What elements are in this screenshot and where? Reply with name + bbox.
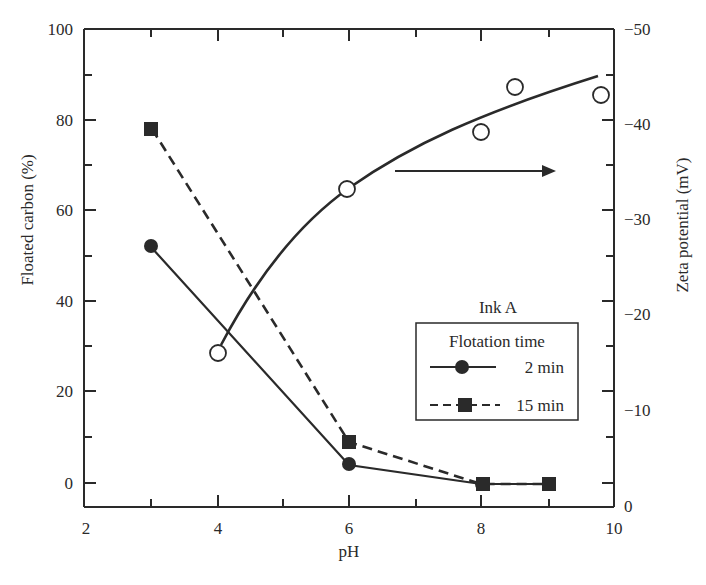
y-tick-label: 60	[56, 201, 73, 220]
legend-entry-2min: 2 min	[525, 358, 565, 377]
y2-tick-label: 0	[624, 497, 633, 516]
x-tick-label: 10	[606, 519, 623, 538]
data-point	[144, 239, 158, 253]
ink-annotation: Ink A	[479, 298, 518, 317]
left-y-ticks	[84, 29, 96, 483]
x-tick-label: 2	[82, 519, 91, 538]
data-point	[210, 345, 226, 361]
legend-entry-15min: 15 min	[516, 396, 564, 415]
legend-circle-icon	[455, 360, 469, 374]
data-point	[593, 87, 609, 103]
data-point	[542, 477, 556, 491]
zeta-fit-curve	[221, 76, 598, 345]
y2-tick-label: −50	[624, 20, 651, 39]
y-tick-label: 80	[56, 111, 73, 130]
y2-tick-label: −10	[624, 401, 651, 420]
right-y-tick-labels: −50 −40 −30 −20 −10 0	[624, 20, 651, 516]
data-point	[476, 477, 490, 491]
data-point	[144, 122, 158, 136]
x-tick-label: 4	[214, 519, 223, 538]
chart: 100 80 60 40 20 0 2 4 6 8 10 pH Floated …	[0, 0, 706, 585]
data-point	[507, 79, 523, 95]
left-y-axis-title: Floated carbon (%)	[18, 154, 37, 285]
x-tick-labels: 2 4 6 8 10	[82, 519, 623, 538]
y2-tick-label: −30	[624, 210, 651, 229]
right-y-axis-title: Zeta potential (mV)	[673, 157, 692, 292]
left-y-tick-labels: 100 80 60 40 20 0	[48, 20, 74, 493]
legend-title: Flotation time	[449, 332, 545, 351]
y2-tick-label: −20	[624, 305, 651, 324]
data-point	[473, 124, 489, 140]
y2-tick-label: −40	[624, 115, 651, 134]
x-tick-label: 8	[477, 519, 486, 538]
y-tick-label: 40	[56, 292, 73, 311]
data-point	[342, 457, 356, 471]
legend-square-icon	[458, 398, 472, 412]
zeta-markers	[210, 79, 609, 361]
y-tick-label: 20	[56, 382, 73, 401]
y-tick-label: 100	[48, 20, 74, 39]
y-tick-label: 0	[65, 474, 74, 493]
legend: Flotation time 2 min 15 min	[416, 323, 578, 420]
x-tick-label: 6	[345, 519, 354, 538]
data-point	[339, 181, 355, 197]
data-point	[342, 435, 356, 449]
x-axis-title: pH	[339, 542, 360, 561]
arrow-icon	[395, 165, 556, 177]
